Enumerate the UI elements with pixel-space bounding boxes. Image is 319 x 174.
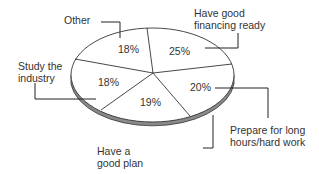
percent-other: 18% (118, 43, 139, 55)
label-financing: Have good financing ready (194, 7, 265, 31)
percent-plan: 19% (140, 96, 161, 108)
label-other: Other (64, 14, 90, 26)
percent-financing: 25% (169, 45, 190, 57)
percent-study: 18% (98, 76, 119, 88)
label-study: Study the industry (18, 60, 62, 84)
percent-prepare: 20% (190, 81, 211, 93)
label-plan: Have a good plan (97, 145, 143, 169)
label-prepare: Prepare for long hours/hard work (230, 124, 305, 148)
